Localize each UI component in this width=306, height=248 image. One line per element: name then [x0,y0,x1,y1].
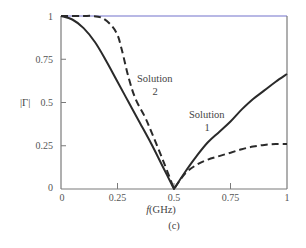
x-ticks: 00.250.50.751 [60,183,290,203]
x-tick-label: 0.25 [109,192,127,203]
y-axis-label: |Γ| [20,97,30,108]
x-tick-label: 1 [285,192,290,203]
annotation-solution-2-line1: Solution [137,73,173,84]
figure-caption: (c) [168,220,180,232]
x-tick-label: 0.75 [222,192,240,203]
x-tick-label: 0.5 [168,192,181,203]
y-tick-label: 0.75 [36,54,54,65]
y-tick-label: 0.5 [41,97,54,108]
y-tick-label: 1 [48,11,53,22]
annotation-solution-1-line2: 1 [204,122,209,133]
x-axis-label: f(GHz) [146,204,176,216]
solution-1-curve [61,16,287,189]
y-tick-label: 0 [48,182,53,193]
x-tick-label: 0 [60,192,65,203]
y-tick-label: 0.25 [36,140,54,151]
series-group [61,16,287,189]
reflection-coefficient-chart: 00.250.50.751 00.250.50.751 |Γ| f(GHz) (… [0,0,306,248]
annotation-solution-1-line1: Solution [189,109,225,120]
annotation-solution-2-line2: 2 [152,86,157,97]
